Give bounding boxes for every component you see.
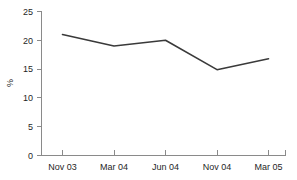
line-chart-figure: 25 20 15 10 5 0 % Nov 03 Mar 04 Jun 04 N…	[0, 0, 297, 180]
y-tick-label-25: 25	[23, 7, 33, 17]
chart-background	[0, 0, 297, 180]
y-tick-label-0: 0	[28, 151, 33, 161]
x-tick-label-jun-04: Jun 04	[152, 162, 179, 172]
y-tick-label-15: 15	[23, 64, 33, 74]
y-tick-label-5: 5	[28, 122, 33, 132]
x-tick-label-nov-04: Nov 04	[203, 162, 232, 172]
chart-canvas: 25 20 15 10 5 0 % Nov 03 Mar 04 Jun 04 N…	[0, 0, 297, 180]
y-axis-title: %	[5, 79, 15, 87]
x-tick-label-mar-04: Mar 04	[100, 162, 128, 172]
x-tick-label-mar-05: Mar 05	[254, 162, 282, 172]
x-tick-label-nov-03: Nov 03	[48, 162, 77, 172]
y-tick-label-20: 20	[23, 36, 33, 46]
y-tick-label-10: 10	[23, 93, 33, 103]
